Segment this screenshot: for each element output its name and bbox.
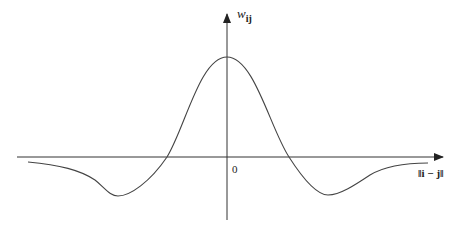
x-axis-label: ‖i − j‖ bbox=[418, 167, 444, 179]
y-axis-label-subscript: ij bbox=[246, 13, 252, 24]
weight-curve bbox=[28, 57, 428, 196]
y-axis-label: wij bbox=[237, 6, 252, 24]
mexican-hat-diagram: wij 0 ‖i − j‖ bbox=[0, 0, 465, 225]
origin-label: 0 bbox=[232, 163, 238, 175]
